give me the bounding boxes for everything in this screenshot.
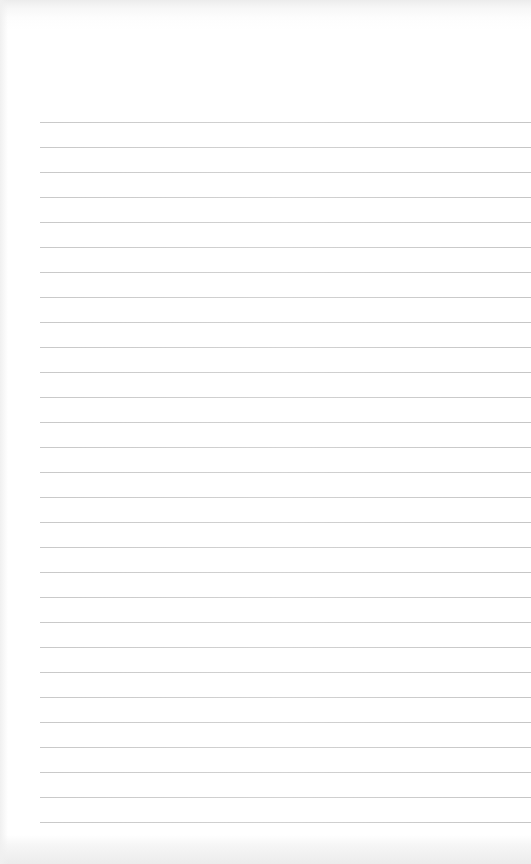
ruled-line (40, 372, 531, 373)
ruled-line (40, 122, 531, 123)
ruled-line (40, 297, 531, 298)
ruled-line (40, 197, 531, 198)
ruled-line (40, 672, 531, 673)
ruled-line (40, 647, 531, 648)
ruled-line (40, 172, 531, 173)
ruled-line (40, 522, 531, 523)
ruled-line (40, 347, 531, 348)
ruled-line (40, 572, 531, 573)
ruled-line (40, 622, 531, 623)
ruled-line (40, 322, 531, 323)
ruled-line (40, 272, 531, 273)
ruled-line (40, 772, 531, 773)
ruled-line (40, 747, 531, 748)
ruled-line (40, 497, 531, 498)
ruled-line (40, 472, 531, 473)
ruled-line (40, 547, 531, 548)
ruled-line (40, 422, 531, 423)
lined-paper-sheet (0, 0, 531, 864)
ruled-line (40, 797, 531, 798)
ruled-line (40, 247, 531, 248)
ruled-line (40, 447, 531, 448)
ruled-line (40, 222, 531, 223)
ruled-line (40, 722, 531, 723)
ruled-line (40, 597, 531, 598)
ruled-line (40, 822, 531, 823)
ruled-line (40, 147, 531, 148)
ruled-line (40, 397, 531, 398)
ruled-line (40, 697, 531, 698)
